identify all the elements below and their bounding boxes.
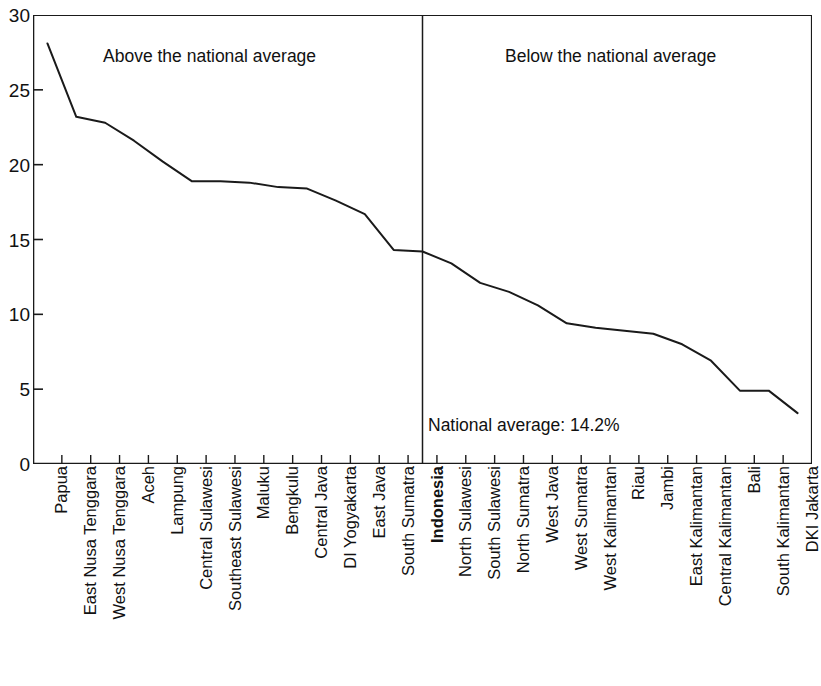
- y-axis-tick-label: 25: [4, 80, 30, 99]
- x-axis-category-label: East Nusa Tenggara: [82, 466, 99, 615]
- x-axis-category-label: West Sumatra: [573, 466, 590, 570]
- y-axis-tick-label: 5: [4, 380, 30, 399]
- y-axis: 051015202530: [0, 0, 30, 686]
- x-axis-category-label: Central Java: [313, 466, 330, 559]
- chart-canvas: [33, 15, 812, 464]
- x-axis-category-label: West Java: [544, 466, 561, 543]
- x-axis-category-label: East Kalimantan: [688, 466, 705, 586]
- x-axis: PapuaEast Nusa TenggaraWest Nusa Tenggar…: [33, 466, 812, 686]
- x-axis-category-label: South Sumatra: [400, 466, 417, 576]
- plot-area: [33, 15, 812, 464]
- y-axis-tick-label: 20: [4, 155, 30, 174]
- y-axis-tick-label: 30: [4, 6, 30, 25]
- annotation-below-national-average: Below the national average: [505, 46, 716, 66]
- x-axis-category-label: South Kalimantan: [775, 466, 792, 596]
- x-axis-category-label: Lampung: [169, 466, 186, 535]
- y-axis-tick-label: 15: [4, 230, 30, 249]
- x-axis-category-label: North Sumatra: [515, 466, 532, 573]
- x-axis-category-label: West Kalimantan: [602, 466, 619, 590]
- x-axis-category-label: Aceh: [140, 466, 157, 504]
- x-axis-category-label: Bengkulu: [284, 466, 301, 535]
- annotation-national-average-value: National average: 14.2%: [428, 415, 620, 435]
- x-axis-category-label: DKI Jakarta: [804, 466, 821, 552]
- x-axis-category-label: Central Sulawesi: [198, 466, 215, 590]
- x-axis-category-label: Bali: [746, 466, 763, 494]
- x-axis-category-label: East Java: [371, 466, 388, 538]
- x-axis-category-label: Central Kalimantan: [717, 466, 734, 606]
- x-axis-category-label: Papua: [53, 466, 70, 514]
- x-axis-category-label: DI Yogyakarta: [342, 466, 359, 569]
- x-axis-category-label: Southeast Sulawesi: [227, 466, 244, 611]
- x-axis-category-label: North Sulawesi: [457, 466, 474, 577]
- x-axis-category-label: West Nusa Tenggara: [111, 466, 128, 619]
- x-axis-category-label: Riau: [630, 466, 647, 500]
- annotation-above-national-average: Above the national average: [103, 46, 316, 66]
- x-axis-category-label: South Sulawesi: [486, 466, 503, 580]
- x-axis-category-label: Indonesia: [429, 466, 446, 543]
- y-axis-tick-label: 10: [4, 305, 30, 324]
- y-axis-tick-label: 0: [4, 455, 30, 474]
- x-axis-category-label: Jambi: [659, 466, 676, 510]
- x-axis-category-label: Maluku: [255, 466, 272, 519]
